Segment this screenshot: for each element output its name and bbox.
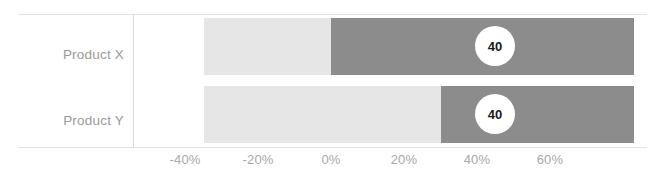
axis-tick-label: 40% bbox=[464, 152, 491, 167]
value-axis-tick-labels: -40%-20%0%20%40%60% bbox=[0, 152, 647, 180]
bar-segment-negative bbox=[204, 86, 441, 143]
data-label-bubble: 40 bbox=[475, 26, 515, 66]
axis-tick-label: -40% bbox=[169, 152, 200, 167]
bar-segment-positive bbox=[441, 86, 634, 143]
bar-chart: Product X Product Y 40 40 -40%-20%0%20%4… bbox=[0, 0, 647, 188]
axis-tick-label: 20% bbox=[391, 152, 418, 167]
bar-row[interactable] bbox=[204, 86, 634, 143]
plot-area: 40 40 bbox=[0, 0, 647, 147]
bar-segment-negative bbox=[204, 18, 331, 75]
data-label-bubble: 40 bbox=[475, 94, 515, 134]
axis-tick-label: -20% bbox=[242, 152, 273, 167]
axis-tick-label: 0% bbox=[321, 152, 340, 167]
value-axis-line bbox=[18, 147, 647, 148]
axis-tick-label: 60% bbox=[537, 152, 564, 167]
bar-row[interactable] bbox=[204, 18, 634, 75]
